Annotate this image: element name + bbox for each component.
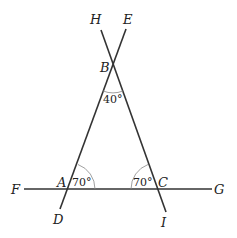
label-B: B bbox=[99, 60, 110, 75]
label-F: F bbox=[10, 182, 21, 197]
label-I: I bbox=[160, 215, 167, 230]
label-E: E bbox=[122, 12, 133, 27]
label-C: C bbox=[158, 175, 168, 190]
label-D: D bbox=[52, 212, 64, 227]
angle-label-A: 70° bbox=[72, 176, 92, 189]
line-DE bbox=[60, 29, 126, 209]
angle-label-C: 70° bbox=[133, 176, 153, 189]
triangle-diagram: H E B F A C G D I 40° 70° 70° bbox=[0, 0, 237, 238]
label-H: H bbox=[89, 12, 102, 27]
angle-label-B: 40° bbox=[103, 93, 123, 106]
label-G: G bbox=[214, 182, 224, 197]
label-A: A bbox=[56, 175, 66, 190]
